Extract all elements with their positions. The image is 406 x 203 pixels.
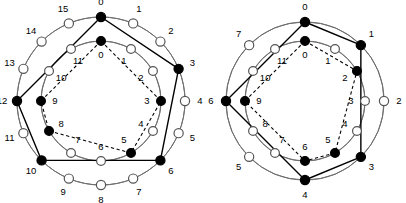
outer-ring-node-10-filled[interactable] — [37, 156, 46, 165]
diagram-canvas: 0123456789101112131415012345678910110123… — [0, 0, 406, 203]
outer-ring-node-14-open[interactable] — [37, 37, 46, 46]
inner-ring-label-5: 5 — [121, 134, 126, 145]
outer-ring-node-1-filled[interactable] — [356, 41, 365, 50]
inner-ring-label-11: 11 — [277, 55, 287, 66]
inner-ring-node-1-open[interactable] — [127, 45, 136, 54]
outer-ring-node-2-open[interactable] — [156, 37, 165, 46]
outer-ring-label-15: 15 — [58, 3, 69, 14]
inner-ring-label-7: 7 — [279, 134, 284, 145]
inner-ring-node-9-filled[interactable] — [241, 97, 250, 106]
inner-ring-node-6-open[interactable] — [97, 157, 106, 166]
inner-ring-node-2-filled[interactable] — [353, 67, 362, 76]
inner-ring-label-10: 10 — [260, 72, 271, 83]
inner-ring-label-7: 7 — [75, 134, 80, 145]
outer-ring-label-8: 8 — [98, 194, 103, 203]
outer-ring-label-5: 5 — [190, 132, 195, 143]
inner-ring-node-3-filled[interactable] — [157, 97, 166, 106]
outer-ring-node-4-open[interactable] — [180, 96, 189, 105]
inner-ring-node-0-filled[interactable] — [301, 37, 310, 46]
outer-ring-label-2: 2 — [168, 25, 173, 36]
inner-ring-label-11: 11 — [73, 55, 83, 66]
inner-ring-label-1: 1 — [325, 55, 330, 66]
outer-ring-node-13-open[interactable] — [19, 64, 28, 73]
outer-ring-label-7: 7 — [136, 186, 141, 197]
inner-ring-node-8-open[interactable] — [249, 127, 258, 136]
outer-ring-node-3-filled[interactable] — [356, 152, 365, 161]
inner-ring-label-6: 6 — [98, 141, 103, 152]
inner-ring-node-0-filled[interactable] — [97, 37, 106, 46]
outer-ring-node-3-filled[interactable] — [174, 64, 183, 73]
outer-ring-label-5: 5 — [236, 161, 241, 172]
render-root: 0123456789101112131415012345678910110123… — [0, 0, 402, 203]
inner-ring-node-4-open[interactable] — [353, 127, 362, 136]
inner-ring-label-4: 4 — [342, 118, 347, 129]
outer-ring-node-0-filled[interactable] — [300, 17, 309, 26]
outer-ring-node-4-filled[interactable] — [300, 175, 309, 184]
inner-ring-label-5: 5 — [325, 134, 330, 145]
outer-ring-label-6: 6 — [168, 165, 173, 176]
inner-ring-label-3: 3 — [348, 95, 353, 106]
inner-ring-node-7-open[interactable] — [271, 149, 280, 158]
outer-ring-node-6-filled[interactable] — [221, 96, 230, 105]
outer-ring-node-9-open[interactable] — [64, 174, 73, 183]
inner-ring-node-7-open[interactable] — [67, 149, 76, 158]
outer-ring-label-3: 3 — [369, 161, 374, 172]
outer-ring-node-5-open[interactable] — [245, 152, 254, 161]
outer-ring-label-6: 6 — [208, 95, 213, 106]
inner-ring-node-6-filled[interactable] — [301, 157, 310, 166]
outer-ring-label-9: 9 — [60, 186, 65, 197]
outer-ring-node-12-filled[interactable] — [12, 96, 21, 105]
inner-ring-node-10-open[interactable] — [45, 67, 54, 76]
inner-ring-node-8-filled[interactable] — [45, 127, 54, 136]
outer-ring-label-4: 4 — [197, 95, 202, 106]
inner-ring-label-4: 4 — [138, 118, 143, 129]
outer-ring-node-7-open[interactable] — [129, 174, 138, 183]
inner-ring-node-4-open[interactable] — [149, 127, 158, 136]
outer-ring-node-8-open[interactable] — [96, 180, 105, 189]
outer-ring-node-2-open[interactable] — [379, 96, 388, 105]
inner-ring-label-0: 0 — [302, 49, 307, 60]
inner-ring-node-2-open[interactable] — [149, 67, 158, 76]
inner-ring-label-2: 2 — [342, 72, 347, 83]
inner-ring-label-9: 9 — [52, 95, 57, 106]
outer-ring-label-13: 13 — [4, 57, 15, 68]
outer-ring-node-5-open[interactable] — [174, 129, 183, 138]
outer-ring-node-7-open[interactable] — [245, 41, 254, 50]
outer-ring-node-0-filled[interactable] — [96, 12, 105, 21]
outer-ring-label-0: 0 — [98, 0, 103, 7]
outer-ring-label-0: 0 — [302, 1, 307, 12]
inner-ring-label-8: 8 — [59, 118, 64, 129]
inner-ring-label-10: 10 — [56, 72, 67, 83]
inner-ring-node-5-filled[interactable] — [331, 149, 340, 158]
outer-ring-label-12: 12 — [0, 95, 7, 106]
outer-ring-label-4: 4 — [302, 189, 307, 200]
right-diagram: 0123456701234567891011 — [208, 1, 401, 200]
inner-ring-label-2: 2 — [138, 72, 143, 83]
outer-ring-node-11-open[interactable] — [19, 129, 28, 138]
inner-ring-node-1-open[interactable] — [331, 45, 340, 54]
outer-ring-label-3: 3 — [190, 57, 195, 68]
outer-ring-label-10: 10 — [26, 165, 37, 176]
outer-ring-node-1-open[interactable] — [129, 19, 138, 28]
inner-ring-label-8: 8 — [263, 118, 268, 129]
inner-ring-node-10-open[interactable] — [249, 67, 258, 76]
outer-ring-label-1: 1 — [369, 28, 374, 39]
inner-ring-label-0: 0 — [98, 49, 103, 60]
outer-ring-label-11: 11 — [5, 132, 15, 143]
figure-container: 0123456789101112131415012345678910110123… — [0, 0, 406, 203]
inner-ring-node-5-filled[interactable] — [127, 149, 136, 158]
inner-ring-label-9: 9 — [256, 95, 261, 106]
outer-ring-label-7: 7 — [236, 28, 241, 39]
inner-ring-node-11-open[interactable] — [67, 45, 76, 54]
inner-ring-label-3: 3 — [144, 95, 149, 106]
inner-ring-node-3-open[interactable] — [361, 97, 370, 106]
outer-ring-label-2: 2 — [396, 95, 401, 106]
inner-ring-node-9-filled[interactable] — [37, 97, 46, 106]
outer-ring-label-1: 1 — [136, 3, 141, 14]
left-diagram: 012345678910111213141501234567891011 — [0, 0, 203, 203]
inner-ring-node-11-open[interactable] — [271, 45, 280, 54]
outer-ring-node-6-filled[interactable] — [156, 156, 165, 165]
inner-ring-label-6: 6 — [302, 141, 307, 152]
outer-ring-node-15-open[interactable] — [64, 19, 73, 28]
outer-ring-label-14: 14 — [26, 25, 37, 36]
